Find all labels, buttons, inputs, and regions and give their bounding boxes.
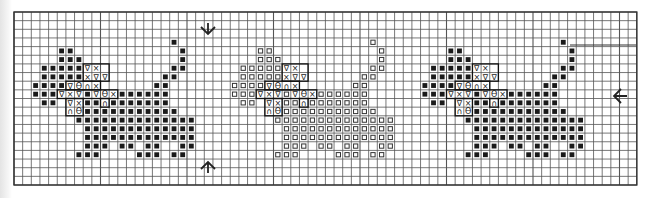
stitch-symbol-triangle-down: ∇ xyxy=(456,99,463,108)
stitch-open-square xyxy=(241,92,245,96)
stitch-open-square xyxy=(310,101,314,105)
stitch-open-square xyxy=(284,92,288,96)
stitch-filled-square xyxy=(518,100,523,105)
stitch-symbol-triangle-down: ∇ xyxy=(92,73,99,82)
stitch-filled-square xyxy=(154,144,159,149)
stitch-filled-square xyxy=(51,100,56,105)
stitch-open-square xyxy=(345,153,349,157)
stitch-filled-square xyxy=(570,118,575,123)
stitch-filled-square xyxy=(448,83,453,88)
stitch-filled-square xyxy=(483,152,488,157)
stitch-open-square xyxy=(232,92,236,96)
stitch-open-square xyxy=(258,83,262,87)
stitch-open-square xyxy=(276,118,280,122)
stitch-symbol-theta: ϴ xyxy=(102,90,108,99)
stitch-open-square xyxy=(284,118,288,122)
stitch-open-square xyxy=(354,135,358,139)
stitch-filled-square xyxy=(544,100,549,105)
stitch-filled-square xyxy=(172,152,177,157)
stitch-open-square xyxy=(284,101,288,105)
stitch-filled-square xyxy=(440,100,445,105)
stitch-open-square xyxy=(293,109,297,113)
stitch-open-square xyxy=(345,109,349,113)
stitch-filled-square xyxy=(500,100,505,105)
stitch-symbol-arch: ∩ xyxy=(284,82,290,91)
stitch-open-square xyxy=(276,66,280,70)
stitch-symbol-cross: × xyxy=(465,99,472,108)
stitch-filled-square xyxy=(180,152,185,157)
stitch-open-square xyxy=(302,127,306,131)
stitch-open-square xyxy=(241,75,245,79)
stitch-filled-square xyxy=(102,135,107,140)
stitch-filled-square xyxy=(111,109,116,114)
stitch-open-square xyxy=(232,83,236,87)
stitch-symbol-cross: × xyxy=(93,64,100,73)
stitch-symbol-triangle-down: ∇ xyxy=(464,90,471,99)
stitch-filled-square xyxy=(552,135,557,140)
stitch-filled-square xyxy=(85,100,90,105)
stitch-filled-square xyxy=(535,144,540,149)
stitch-open-square xyxy=(319,92,323,96)
stitch-symbol-arch: ∩ xyxy=(102,99,108,108)
stitch-open-square xyxy=(302,144,306,148)
stitch-filled-square xyxy=(172,66,177,71)
stitch-open-square xyxy=(380,57,384,61)
stitch-filled-square xyxy=(526,126,531,131)
stitch-filled-square xyxy=(500,109,505,114)
stitch-filled-square xyxy=(120,92,125,97)
stitch-filled-square xyxy=(94,118,99,123)
stitch-open-square xyxy=(380,49,384,53)
stitch-filled-square xyxy=(128,144,133,149)
stitch-filled-square xyxy=(85,135,90,140)
stitch-filled-square xyxy=(509,144,514,149)
stitch-filled-square xyxy=(163,83,168,88)
stitch-open-square xyxy=(371,75,375,79)
stitch-open-square xyxy=(362,101,366,105)
stitch-filled-square xyxy=(552,83,557,88)
stitch-filled-square xyxy=(526,100,531,105)
cross-stitch-chart: ∇××∇∇∇ϴ∩×∇×∇∇ϴ×∇×∩∩ϴ∇××∇∇∇ϴ∩×∇×∇∇ϴ×∇×∩∩ϴ… xyxy=(0,0,670,198)
stitch-filled-square xyxy=(552,74,557,79)
stitch-filled-square xyxy=(163,135,168,140)
stitch-filled-square xyxy=(146,126,151,131)
stitch-filled-square xyxy=(570,135,575,140)
stitch-open-square xyxy=(362,109,366,113)
stitch-symbol-cross: × xyxy=(274,99,281,108)
stitch-open-square xyxy=(328,118,332,122)
stitch-filled-square xyxy=(535,92,540,97)
stitch-filled-square xyxy=(94,100,99,105)
stitch-symbol-arch: ∩ xyxy=(491,99,497,108)
stitch-open-square xyxy=(345,92,349,96)
stitch-symbol-theta: ϴ xyxy=(275,107,281,116)
stitch-filled-square xyxy=(552,109,557,114)
stitch-open-square xyxy=(293,101,297,105)
stitch-symbol-triangle-down: ∇ xyxy=(92,90,99,99)
stitch-symbol-theta: ϴ xyxy=(76,107,82,116)
stitch-open-square xyxy=(362,135,366,139)
stitch-open-square xyxy=(328,92,332,96)
stitch-open-square xyxy=(250,101,254,105)
stitch-symbol-theta: ϴ xyxy=(465,107,471,116)
stitch-filled-square xyxy=(59,74,64,79)
stitch-filled-square xyxy=(94,135,99,140)
stitch-filled-square xyxy=(440,66,445,71)
stitch-filled-square xyxy=(128,118,133,123)
stitch-symbol-triangle-down: ∇ xyxy=(101,73,108,82)
stitch-symbol-cross: × xyxy=(76,99,83,108)
stitch-open-square xyxy=(328,127,332,131)
stitch-filled-square xyxy=(94,126,99,131)
stitch-symbol-cross: × xyxy=(456,90,463,99)
stitch-filled-square xyxy=(518,126,523,131)
stitch-filled-square xyxy=(483,109,488,114)
stitch-filled-square xyxy=(431,100,436,105)
stitch-symbol-cross: × xyxy=(292,82,299,91)
stitch-filled-square xyxy=(172,40,177,45)
stitch-filled-square xyxy=(474,92,479,97)
stitch-filled-square xyxy=(492,144,497,149)
stitch-filled-square xyxy=(509,100,514,105)
stitch-filled-square xyxy=(474,100,479,105)
stitch-symbol-theta: ϴ xyxy=(76,82,82,91)
stitch-open-square xyxy=(310,127,314,131)
stitch-open-square xyxy=(354,101,358,105)
stitch-filled-square xyxy=(483,135,488,140)
